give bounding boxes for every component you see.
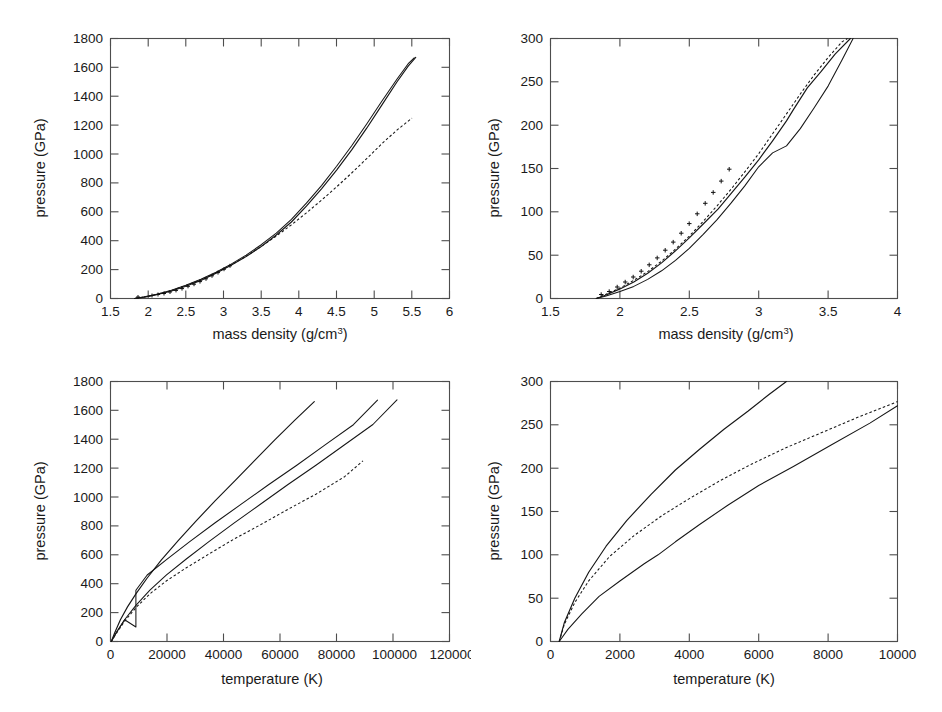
x-tick-labels-bl: 0 20000 40000 60000 80000 100000 120000	[107, 647, 471, 662]
x-tick-label: 2	[144, 304, 152, 319]
y-tick-label: 1000	[73, 147, 103, 162]
x-ticks-tr	[551, 39, 898, 299]
x-tick-label: 4	[894, 304, 902, 319]
x-ticks-bl	[111, 382, 450, 642]
figure-root: 1.5 2 2.5 3 3.5 4 4.5 5 5.5 6 0 200 400 …	[0, 0, 942, 712]
curve-a-solid-tl	[135, 57, 416, 298]
y-tick-label: 300	[520, 31, 543, 46]
x-tick-label: 6000	[744, 647, 774, 662]
x-tick-label: 10000	[879, 647, 917, 662]
y-tick-label: 1200	[73, 118, 103, 133]
x-tick-label: 3.5	[819, 304, 838, 319]
curve-b-solid-tl	[135, 58, 415, 299]
curve-upper-solid-bl	[111, 402, 314, 642]
y-tick-labels-tl: 0 200 400 600 800 1000 1200 1400 1600 18…	[73, 31, 103, 306]
y-tick-label: 1600	[73, 60, 103, 75]
y-tick-label: 1200	[73, 461, 103, 476]
y-tick-label: 50	[528, 591, 543, 606]
y-tick-label: 400	[80, 233, 103, 248]
x-tick-label: 6	[446, 304, 454, 319]
x-tick-labels-tr: 1.5 2 2.5 3 3.5 4	[541, 304, 902, 319]
series-group-br	[559, 382, 897, 642]
y-tick-label: 1000	[73, 490, 103, 505]
series-group-bl	[111, 400, 397, 642]
x-tick-labels-tl: 1.5 2 2.5 3 3.5 4 4.5 5 5.5 6	[101, 304, 453, 319]
y-tick-label: 250	[520, 74, 543, 89]
series-group-tr	[596, 39, 853, 299]
x-tick-label: 4000	[674, 647, 704, 662]
x-tick-label: 60000	[261, 647, 299, 662]
y-ticks-br	[551, 382, 898, 642]
y-ticks-bl	[111, 382, 450, 642]
plot-bottom-right: 0 2000 4000 6000 8000 10000 0 50 100 150…	[471, 356, 942, 712]
plus-markers-tr	[599, 167, 732, 297]
y-tick-labels-br: 0 50 100 150 200 250 300	[520, 374, 543, 649]
y-tick-label: 1400	[73, 432, 103, 447]
x-axis-label-tr: mass density (g/cm3)	[658, 325, 793, 342]
x-tick-label: 100000	[372, 647, 417, 662]
y-tick-label: 1800	[73, 374, 103, 389]
y-tick-label: 800	[80, 518, 103, 533]
x-tick-label: 2.5	[680, 304, 699, 319]
x-tick-label: 2	[616, 304, 624, 319]
axes-frame-tr	[551, 39, 898, 299]
y-tick-label: 1800	[73, 31, 103, 46]
x-tick-label: 1.5	[101, 304, 120, 319]
curve-c-dashed-tl	[135, 118, 412, 298]
y-tick-label: 800	[80, 175, 103, 190]
y-axis-label-br: pressure (GPa)	[486, 461, 502, 560]
y-tick-label: 0	[95, 634, 103, 649]
panel-bottom-right: 0 2000 4000 6000 8000 10000 0 50 100 150…	[471, 356, 942, 712]
y-tick-label: 150	[520, 504, 543, 519]
y-tick-label: 600	[80, 547, 103, 562]
x-tick-label: 5.5	[402, 304, 421, 319]
x-ticks-br	[551, 382, 898, 642]
plot-top-left: 1.5 2 2.5 3 3.5 4 4.5 5 5.5 6 0 200 400 …	[0, 0, 471, 356]
y-tick-label: 0	[95, 291, 103, 306]
y-tick-labels-bl: 0 200 400 600 800 1000 1200 1400 1600 18…	[73, 374, 103, 649]
y-tick-label: 400	[80, 576, 103, 591]
x-tick-label: 0	[107, 647, 115, 662]
x-tick-label: 20000	[148, 647, 186, 662]
curve-lower-dashed-bl	[111, 461, 363, 642]
x-tick-label: 4	[295, 304, 303, 319]
x-tick-label: 120000	[429, 647, 471, 662]
x-tick-label: 5	[370, 304, 378, 319]
plot-bottom-left: 0 20000 40000 60000 80000 100000 120000 …	[0, 356, 471, 712]
x-axis-label-bl: temperature (K)	[221, 671, 323, 687]
x-tick-label: 3	[220, 304, 228, 319]
x-tick-label: 3	[755, 304, 763, 319]
y-tick-label: 150	[520, 161, 543, 176]
plot-top-right: 1.5 2 2.5 3 3.5 4 0 50 100 150 200 250 3…	[471, 0, 942, 356]
series-group-tl	[135, 57, 416, 299]
y-tick-label: 600	[80, 204, 103, 219]
y-axis-label-bl: pressure (GPa)	[32, 461, 48, 560]
x-tick-labels-br: 0 2000 4000 6000 8000 10000	[547, 647, 917, 662]
y-tick-label: 200	[80, 262, 103, 277]
x-tick-label: 3.5	[252, 304, 271, 319]
curve-middle-dashed-br	[559, 402, 897, 642]
curve-b-solid-tr	[596, 39, 853, 299]
x-tick-label: 1.5	[541, 304, 560, 319]
x-tick-label: 0	[547, 647, 555, 662]
panel-top-left: 1.5 2 2.5 3 3.5 4 4.5 5 5.5 6 0 200 400 …	[0, 0, 471, 356]
x-tick-label: 40000	[205, 647, 243, 662]
y-tick-labels-tr: 0 50 100 150 200 250 300	[520, 31, 543, 306]
y-tick-label: 0	[535, 634, 543, 649]
axes-frame-br	[551, 382, 898, 642]
y-tick-label: 100	[520, 547, 543, 562]
y-tick-label: 0	[535, 291, 543, 306]
y-tick-label: 200	[520, 118, 543, 133]
axes-frame-bl	[111, 382, 450, 642]
curve-c-dashed-tr	[596, 39, 847, 299]
panel-top-right: 1.5 2 2.5 3 3.5 4 0 50 100 150 200 250 3…	[471, 0, 942, 356]
x-axis-label-tl: mass density (g/cm3)	[212, 325, 347, 342]
plus-markers-tl	[136, 264, 232, 299]
x-tick-label: 8000	[813, 647, 843, 662]
x-tick-label: 2.5	[176, 304, 195, 319]
y-tick-label: 1400	[73, 89, 103, 104]
y-tick-label: 250	[520, 417, 543, 432]
x-tick-label: 2000	[605, 647, 635, 662]
curve-lower-solid-br	[559, 406, 897, 642]
x-tick-label: 80000	[318, 647, 356, 662]
